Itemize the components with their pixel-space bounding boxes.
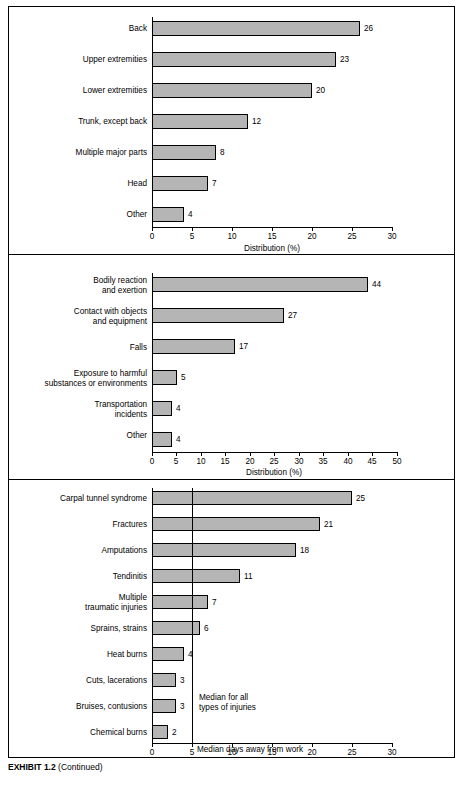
category-label: Tendinitis <box>17 572 147 582</box>
bar-value: 3 <box>180 676 185 685</box>
x-tick <box>323 453 324 456</box>
x-tick <box>152 228 153 231</box>
x-axis <box>152 452 398 453</box>
bar-value: 8 <box>220 148 225 157</box>
x-tick-label: 5 <box>182 232 202 241</box>
category-label: Sprains, strains <box>17 624 147 634</box>
median-annotation: Median for all types of injuries <box>199 693 319 712</box>
bar-value: 44 <box>372 280 381 289</box>
category-label: Lower extremities <box>29 86 147 96</box>
chart-panel-3: Carpal tunnel syndrome Fractures Amputat… <box>9 480 454 759</box>
x-tick-label: 40 <box>338 457 358 466</box>
x-tick <box>299 453 300 456</box>
x-tick-label: 25 <box>342 232 362 241</box>
x-tick <box>232 228 233 231</box>
x-tick <box>392 744 393 747</box>
category-label: Chemical burns <box>17 728 147 738</box>
bar-falls <box>152 339 235 354</box>
x-tick <box>250 453 251 456</box>
category-label: Multiple major parts <box>29 148 147 158</box>
bar-value: 12 <box>252 117 261 126</box>
bar-value: 27 <box>288 311 297 320</box>
x-axis-title: Median days away from work <box>160 745 340 754</box>
x-tick-label: 35 <box>313 457 333 466</box>
x-tick-label: 45 <box>362 457 382 466</box>
exhibit-frame: Back Upper extremities Lower extremities… <box>8 6 455 758</box>
category-label: Transportation incidents <box>29 400 147 419</box>
bar-value: 17 <box>239 342 248 351</box>
category-label: Multiple traumatic injuries <box>17 593 147 612</box>
bar-back <box>152 21 360 36</box>
bar-heat-burns <box>152 647 184 661</box>
x-tick-label: 50 <box>387 457 407 466</box>
category-label: Head <box>29 179 147 189</box>
bar-value: 26 <box>364 24 373 33</box>
category-label: Trunk, except back <box>29 117 147 127</box>
bar-value: 4 <box>176 404 181 413</box>
x-tick-label: 0 <box>142 748 162 757</box>
chart-1: Back Upper extremities Lower extremities… <box>9 7 454 254</box>
x-tick-label: 10 <box>191 457 211 466</box>
x-tick <box>392 228 393 231</box>
chart-3: Carpal tunnel syndrome Fractures Amputat… <box>9 480 454 759</box>
category-label: Bruises, contusions <box>17 702 147 712</box>
median-reference-line <box>192 488 193 743</box>
bar-value: 11 <box>244 572 253 581</box>
x-tick <box>152 453 153 456</box>
x-tick <box>274 453 275 456</box>
bar-value: 4 <box>188 210 193 219</box>
category-label: Amputations <box>17 546 147 556</box>
bar-exposure-to-harmful-substances <box>152 370 177 385</box>
x-tick <box>352 744 353 747</box>
x-tick <box>152 744 153 747</box>
bar-cuts-lacerations <box>152 673 176 687</box>
category-label: Other <box>29 431 147 441</box>
category-label: Contact with objects and equipment <box>29 307 147 326</box>
x-tick <box>192 228 193 231</box>
category-label: Heat burns <box>17 650 147 660</box>
x-tick <box>312 228 313 231</box>
bar-chemical-burns <box>152 725 168 739</box>
category-label: Back <box>29 24 147 34</box>
caption-text: (Continued) <box>56 762 103 772</box>
category-label: Other <box>29 210 147 220</box>
bar-amputations <box>152 543 296 557</box>
bar-tendinitis <box>152 569 240 583</box>
bar-other <box>152 432 172 447</box>
x-tick-label: 25 <box>264 457 284 466</box>
x-tick-label: 0 <box>142 457 162 466</box>
x-axis-title: Distribution (%) <box>214 468 334 477</box>
bar-upper-extremities <box>152 52 336 67</box>
bar-bodily-reaction-and-exertion <box>152 277 368 292</box>
bar-other <box>152 207 184 222</box>
bar-value: 7 <box>212 179 217 188</box>
x-tick-label: 30 <box>382 748 402 757</box>
x-axis-title: Distribution (%) <box>212 244 332 253</box>
category-label: Falls <box>29 343 147 353</box>
x-tick-label: 25 <box>342 748 362 757</box>
exhibit-page: Back Upper extremities Lower extremities… <box>0 0 463 787</box>
bar-value: 25 <box>356 494 365 503</box>
bar-contact-with-objects-and-equipment <box>152 308 284 323</box>
bar-value: 4 <box>176 435 181 444</box>
category-label: Carpal tunnel syndrome <box>17 494 147 504</box>
x-tick <box>201 453 202 456</box>
x-tick <box>225 453 226 456</box>
y-axis <box>152 273 153 452</box>
bar-head <box>152 176 208 191</box>
category-label: Fractures <box>17 520 147 530</box>
x-tick <box>272 228 273 231</box>
category-label: Bodily reaction and exertion <box>29 276 147 295</box>
bar-lower-extremities <box>152 83 312 98</box>
y-axis <box>152 488 153 743</box>
x-tick <box>176 453 177 456</box>
x-tick <box>348 453 349 456</box>
x-tick-label: 15 <box>262 232 282 241</box>
chart-panel-2: Bodily reaction and exertion Contact wit… <box>9 255 454 479</box>
bar-value: 5 <box>181 373 186 382</box>
x-tick <box>397 453 398 456</box>
bar-value: 20 <box>316 86 325 95</box>
category-label: Exposure to harmful substances or enviro… <box>17 369 147 388</box>
x-tick <box>372 453 373 456</box>
y-axis <box>152 17 153 227</box>
